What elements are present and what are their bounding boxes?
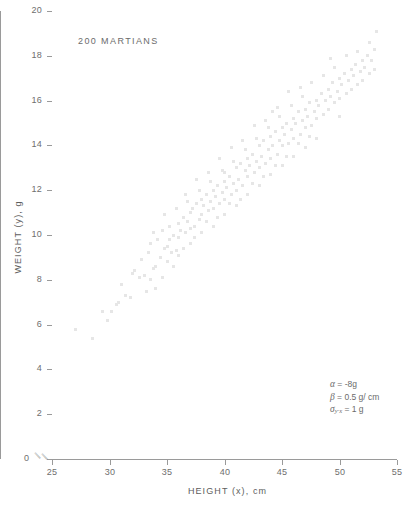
data-point — [152, 267, 155, 270]
data-point — [333, 101, 336, 104]
data-point — [350, 68, 353, 71]
data-point — [264, 162, 267, 165]
y-tick-mark — [47, 369, 52, 370]
x-tick-label: 25 — [37, 467, 67, 477]
data-point — [308, 101, 311, 104]
data-point — [276, 106, 279, 109]
data-point — [370, 59, 373, 62]
data-point — [228, 202, 231, 205]
data-point — [345, 54, 348, 57]
data-point — [304, 126, 307, 129]
data-point — [262, 175, 265, 178]
data-point — [189, 211, 192, 214]
x-tick-mark — [167, 460, 168, 465]
data-point — [230, 146, 233, 149]
data-point — [327, 108, 330, 111]
data-points-layer — [0, 0, 417, 509]
data-point — [366, 54, 369, 57]
data-point — [161, 229, 164, 232]
data-point — [373, 68, 376, 71]
data-point — [241, 184, 244, 187]
data-point — [193, 225, 196, 228]
data-point — [74, 328, 77, 331]
plot-annotation-label: 200 MARTIANS — [78, 36, 159, 46]
data-point — [207, 209, 210, 212]
data-point — [352, 74, 355, 77]
data-point — [147, 251, 150, 254]
data-point — [223, 180, 226, 183]
data-point — [179, 229, 182, 232]
data-point — [154, 287, 157, 290]
data-point — [336, 90, 339, 93]
data-point — [271, 110, 274, 113]
y-tick-label: 14 — [10, 139, 42, 149]
data-point — [347, 79, 350, 82]
data-point — [241, 139, 244, 142]
data-point — [359, 70, 362, 73]
data-point — [306, 115, 309, 118]
data-point — [133, 269, 136, 272]
data-point — [251, 182, 254, 185]
data-point — [262, 139, 265, 142]
data-point — [129, 296, 132, 299]
data-point — [281, 164, 284, 167]
data-point — [232, 182, 235, 185]
data-point — [253, 171, 256, 174]
data-point — [297, 110, 300, 113]
data-point — [258, 166, 261, 169]
data-point — [237, 178, 240, 181]
data-point — [198, 189, 201, 192]
data-point — [260, 155, 263, 158]
data-point — [200, 231, 203, 234]
data-point — [168, 238, 171, 241]
data-point — [244, 148, 247, 151]
y-tick-label: 2 — [10, 408, 42, 418]
scatter-plot-figure: 200 MARTIANS 2468101214161820 2530354045… — [0, 0, 417, 509]
data-point — [110, 310, 113, 313]
data-point — [163, 213, 166, 216]
data-point — [317, 104, 320, 107]
data-point — [198, 218, 201, 221]
data-point — [267, 126, 270, 129]
data-point — [166, 245, 169, 248]
data-point — [230, 193, 233, 196]
data-point — [356, 83, 359, 86]
data-point — [290, 128, 293, 131]
data-point — [322, 113, 325, 116]
data-point — [329, 57, 332, 60]
data-point — [315, 117, 318, 120]
data-point — [156, 238, 159, 241]
data-point — [287, 90, 290, 93]
data-point — [269, 173, 272, 176]
data-point — [283, 133, 286, 136]
data-point — [345, 92, 348, 95]
y-tick-mark — [47, 414, 52, 415]
y-tick-label: 18 — [10, 50, 42, 60]
data-point — [177, 236, 180, 239]
x-tick-mark — [340, 460, 341, 465]
data-point — [338, 115, 341, 118]
data-point — [258, 184, 261, 187]
data-point — [221, 191, 224, 194]
data-point — [223, 171, 226, 174]
data-point — [310, 81, 313, 84]
data-point — [177, 222, 180, 225]
data-point — [356, 50, 359, 53]
data-point — [281, 144, 284, 147]
parameter-row: σy·x = 1 g — [330, 403, 379, 418]
data-point — [101, 310, 104, 313]
y-axis-title: WEIGHT (y), g — [13, 167, 23, 307]
x-tick-mark — [282, 460, 283, 465]
data-point — [235, 204, 238, 207]
data-point — [269, 135, 272, 138]
data-point — [373, 48, 376, 51]
data-point — [212, 207, 215, 210]
data-point — [350, 88, 353, 91]
x-tick-label: 35 — [152, 467, 182, 477]
data-point — [172, 234, 175, 237]
data-point — [200, 198, 203, 201]
data-point — [278, 115, 281, 118]
x-tick-mark — [397, 460, 398, 465]
data-point — [313, 110, 316, 113]
x-tick-mark — [225, 460, 226, 465]
